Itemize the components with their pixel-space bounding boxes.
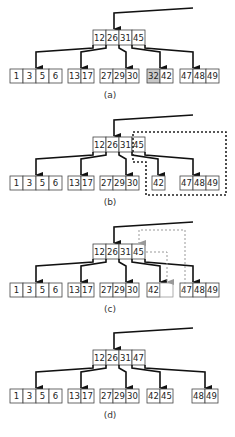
- leaf-node: 272930: [100, 69, 139, 83]
- leaf-node: 272930: [100, 283, 139, 297]
- leaf-key: 45: [161, 391, 172, 401]
- leaf-key: 17: [82, 71, 93, 81]
- root-key: 31: [120, 353, 131, 363]
- root-key: 26: [107, 140, 118, 150]
- leaf-node: 474849: [180, 176, 219, 190]
- leaf-key: 5: [40, 178, 45, 188]
- leaf-key: 6: [53, 71, 58, 81]
- leaf-node: 1356: [10, 283, 62, 297]
- leaf-key: 5: [40, 285, 45, 295]
- leaf-node: 1356: [10, 69, 62, 83]
- leaf-node: 272930: [100, 176, 139, 190]
- root-key: 45: [133, 247, 144, 257]
- leaf-key: 47: [181, 71, 192, 81]
- root-key: 45: [133, 140, 144, 150]
- leaf-key: 27: [101, 285, 112, 295]
- panel-label: (d): [104, 410, 117, 420]
- leaf-key: 27: [101, 71, 112, 81]
- leaf-key: 30: [127, 178, 138, 188]
- leaf-key: 47: [181, 178, 192, 188]
- panel-label: (b): [104, 197, 117, 207]
- leaf-key: 17: [82, 391, 93, 401]
- leaf-key: 49: [207, 71, 218, 81]
- leaf-key: 3: [27, 71, 32, 81]
- root-key: 31: [120, 140, 131, 150]
- leaf-node: 1356: [10, 389, 62, 403]
- root-key: 26: [107, 353, 118, 363]
- root-node: 12263145: [93, 244, 145, 259]
- root-key: 45: [133, 33, 144, 43]
- leaf-key: 29: [114, 71, 125, 81]
- leaf-key: 48: [194, 178, 205, 188]
- leaf-node: 1317: [68, 176, 94, 190]
- panel-a: 12263145135613172729303242474849(a): [10, 8, 219, 100]
- leaf-key: 1: [14, 71, 19, 81]
- leaf-node: 3242: [147, 69, 173, 83]
- leaf-node: 4849: [192, 389, 218, 403]
- leaf-key: 3: [27, 391, 32, 401]
- leaf-key: 6: [53, 285, 58, 295]
- leaf-key: 13: [69, 71, 80, 81]
- panel-c: 122631451356131727293042474849(c): [10, 222, 219, 314]
- panel-b: 122631451356131727293042474849(b): [10, 115, 219, 207]
- leaf-node: 42: [147, 283, 173, 297]
- root-node: 12263147: [93, 350, 145, 365]
- root-key: 47: [133, 353, 144, 363]
- leaf-node: 1317: [68, 283, 94, 297]
- leaf-key: 30: [127, 285, 138, 295]
- leaf-key: 1: [14, 178, 19, 188]
- leaf-key: 3: [27, 178, 32, 188]
- panel-d: 122631471356131727293042454849(d): [10, 328, 218, 420]
- root-key: 12: [94, 33, 105, 43]
- leaf-key: 13: [69, 285, 80, 295]
- leaf-node: 42: [152, 176, 165, 190]
- root-key: 31: [120, 247, 131, 257]
- root-key: 12: [94, 247, 105, 257]
- leaf-key: 42: [153, 178, 164, 188]
- leaf-key: 17: [82, 285, 93, 295]
- leaf-key: 5: [40, 391, 45, 401]
- leaf-key: 49: [207, 178, 218, 188]
- leaf-key: 13: [69, 178, 80, 188]
- leaf-node: 474849: [180, 283, 219, 297]
- leaf-key: 48: [193, 391, 204, 401]
- root-key: 26: [107, 33, 118, 43]
- leaf-key: 1: [14, 391, 19, 401]
- leaf-node: 474849: [180, 69, 219, 83]
- leaf-key: 17: [82, 178, 93, 188]
- leaf-node: 1317: [68, 389, 94, 403]
- leaf-key: 6: [53, 178, 58, 188]
- leaf-key: 29: [114, 391, 125, 401]
- leaf-key: 27: [101, 391, 112, 401]
- leaf-key: 49: [207, 285, 218, 295]
- leaf-node: 1356: [10, 176, 62, 190]
- leaf-node: 1317: [68, 69, 94, 83]
- leaf-key: 1: [14, 285, 19, 295]
- leaf-node: 4245: [147, 389, 173, 403]
- leaf-key: 27: [101, 178, 112, 188]
- root-key: 12: [94, 353, 105, 363]
- leaf-key: 30: [127, 71, 138, 81]
- panel-label: (a): [104, 90, 117, 100]
- leaf-key: 42: [161, 71, 172, 81]
- root-key: 26: [107, 247, 118, 257]
- root-key: 12: [94, 140, 105, 150]
- leaf-key: 29: [114, 285, 125, 295]
- root-node: 12263145: [93, 30, 145, 45]
- leaf-key: 5: [40, 71, 45, 81]
- leaf-key: 47: [181, 285, 192, 295]
- root-key: 31: [120, 33, 131, 43]
- leaf-key: 13: [69, 391, 80, 401]
- leaf-key: 42: [148, 285, 159, 295]
- root-node: 12263145: [93, 137, 145, 152]
- leaf-key: 3: [27, 285, 32, 295]
- leaf-key: 48: [194, 285, 205, 295]
- leaf-key: 32: [148, 71, 159, 81]
- leaf-key: 42: [148, 391, 159, 401]
- leaf-key: 49: [206, 391, 217, 401]
- leaf-key: 48: [194, 71, 205, 81]
- move-down-arrow: [146, 252, 167, 282]
- leaf-key: 30: [127, 391, 138, 401]
- panel-label: (c): [104, 304, 116, 314]
- btree-diagram: 12263145135613172729303242474849(a)12263…: [0, 0, 235, 437]
